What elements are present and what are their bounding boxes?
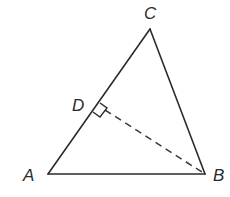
segment-bc bbox=[150, 29, 205, 174]
label-c: C bbox=[144, 4, 157, 23]
segment-ca bbox=[48, 29, 150, 174]
label-b: B bbox=[213, 166, 224, 185]
right-angle-marker bbox=[93, 103, 107, 117]
label-d: D bbox=[72, 96, 84, 115]
triangle-diagram: C D A B bbox=[0, 0, 230, 197]
altitude-bd bbox=[105, 110, 205, 174]
label-a: A bbox=[22, 166, 34, 185]
